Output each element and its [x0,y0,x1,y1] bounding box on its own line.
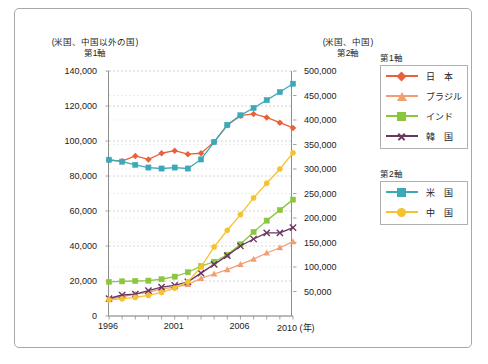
legend-label: ブラジル [426,90,462,103]
data-point [250,236,256,242]
left-tick-label: 40,000 [69,241,97,251]
chart-frame: (米国、中国以外の国) 第1軸 (米国、中国) 第2軸 020,00040,00… [14,8,472,348]
data-point [159,277,164,282]
right-tick-label: 350,000 [304,140,337,150]
left-axis-ticks: 020,00040,00060,00080,000100,000120,0001… [15,71,103,316]
data-point [106,297,111,302]
right-tick-label: 450,000 [304,91,337,101]
data-point [146,293,151,298]
series-canvas [109,71,293,316]
legend-item[interactable]: 韓 国 [381,126,467,146]
plot-area [108,71,292,316]
right-axis-caption-line2: 第2軸 [337,48,360,58]
right-axis-caption-line1: (米国、中国) [323,37,374,47]
legend-group2-box: 米 国中 国 [380,181,468,225]
data-point [185,270,190,275]
right-tick-label: 300,000 [304,164,337,174]
data-point [106,157,111,162]
legend-marker-diamond-icon [386,70,418,82]
data-point [159,290,164,295]
left-axis-caption-line1: (米国、中国以外の国) [52,37,139,47]
legend-group1-title: 第1軸 [380,51,403,63]
legend-marker-square-icon [386,186,418,198]
data-point [132,153,139,160]
data-point [212,244,217,249]
legend-label: 日 本 [426,70,453,83]
data-point [225,228,230,233]
data-point [145,156,152,163]
right-tick-label: 500,000 [304,66,337,76]
data-point [120,159,125,164]
data-point [185,166,190,171]
right-axis-caption: (米国、中国) 第2軸 [307,37,389,58]
data-point [277,119,284,126]
data-point [172,274,177,279]
data-point [251,229,256,234]
legend-marker-x-icon [386,130,418,142]
left-tick-label: 80,000 [69,171,97,181]
data-point [238,212,243,217]
legend-group1-box: 日 本ブラジルインド韓 国 [380,65,468,149]
right-tick-label: 400,000 [304,115,337,125]
data-point [290,81,295,86]
series-日本 [106,111,297,165]
left-tick-label: 140,000 [64,66,97,76]
legend-marker-circle-icon [386,206,418,218]
data-point [158,150,165,157]
data-point [159,166,164,171]
right-tick-label: 200,000 [304,213,337,223]
data-point [171,147,178,154]
data-point [277,89,282,94]
legend-marker-square-icon [386,110,418,122]
right-tick-label: 250,000 [304,189,337,199]
legend-item[interactable]: 中 国 [381,202,467,222]
data-point [290,238,297,244]
data-point [290,225,296,231]
right-axis-ticks: 50,000100,000150,000200,000250,000300,00… [298,71,378,316]
data-point [120,279,125,284]
legend-label: 米 国 [426,186,453,199]
data-point [133,162,138,167]
data-point [172,285,177,290]
data-point [133,278,138,283]
right-tick-label: 50,000 [304,287,332,297]
data-point [264,218,269,223]
legend-marker-triangle-icon [386,90,418,102]
left-tick-label: 20,000 [69,276,97,286]
data-point [106,279,111,284]
legend-item[interactable]: ブラジル [381,86,467,106]
legend-item[interactable]: 日 本 [381,66,467,86]
data-point [198,264,203,269]
x-tick-label: 2001 [164,321,184,331]
series-インド [106,197,295,284]
series-line [109,228,293,299]
x-axis-ticks: 1996200120062010 (年) [15,321,475,341]
series-韓国 [106,225,296,302]
data-point [290,150,295,155]
data-point [277,208,282,213]
data-point [185,279,190,284]
left-tick-label: 0 [92,311,97,321]
data-point [225,122,230,127]
legend-label: インド [426,110,453,123]
data-point [172,165,177,170]
left-tick-label: 120,000 [64,101,97,111]
data-point [120,296,125,301]
series-line [109,242,293,300]
data-point [250,111,256,118]
data-point [146,165,151,170]
data-point [290,197,295,202]
legend-item[interactable]: 米 国 [381,182,467,202]
right-tick-label: 150,000 [304,238,337,248]
right-tick-label: 100,000 [304,262,337,272]
left-tick-label: 60,000 [69,206,97,216]
left-tick-label: 100,000 [64,136,97,146]
legend-label: 韓 国 [426,130,453,143]
left-axis-caption: (米国、中国以外の国) 第1軸 [39,37,151,58]
data-point [264,181,269,186]
data-point [264,98,269,103]
legend-item[interactable]: インド [381,106,467,126]
data-point [185,151,192,158]
data-point [238,113,243,118]
x-tick-label: 2006 [229,321,249,331]
